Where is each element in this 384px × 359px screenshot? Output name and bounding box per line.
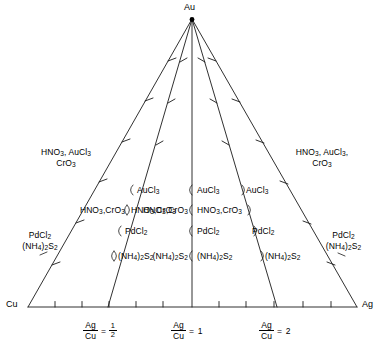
label-half-aucl3: AuCl3 [137,185,160,196]
ratio-two-fraction: Ag Cu [259,320,274,341]
label-right-top: HNO3, AuCl3, CrO3 [272,147,372,168]
ratio-one-value: 1 [198,325,203,336]
ratio-two-numerator: Ag [259,320,273,331]
label-one-hno3-cro3: HNO3,CrO3 [197,205,242,216]
label-right-bottom-line1: PdCl2 [332,230,355,240]
ratio-label-two: Ag Cu = 2 [258,320,293,341]
apex-label-au: Au [184,2,195,12]
ratio-half-value-den: 2 [109,331,117,339]
apex-marker [190,17,195,22]
ratio-one-denominator: Cu [171,331,186,341]
label-right-bottom-line2: (NH4)2S2 [326,241,361,251]
ratio-half-denominator: Cu [83,331,98,341]
label-left-top-line2: CrO3 [56,158,76,168]
ratio-one-fraction: Ag Cu [171,320,186,341]
label-right-top-line2: CrO3 [312,158,332,168]
label-one-pdcl2: PdCl2 [197,226,220,237]
label-right-top-line1: HNO3, AuCl3, [296,147,349,157]
label-one-nh4-2s2: (NH4)2S2 [197,251,232,262]
label-left-bottom-line2: (NH4)2S2 [22,241,57,251]
ratio-half-equals: = [101,325,106,336]
ratio-one-numerator: Ag [171,320,185,331]
ratio-half-fraction: Ag Cu [83,320,98,341]
label-left-bottom: PdCl2 (NH4)2S2 [0,230,80,251]
ternary-diagram: Au Cu Ag HNO3, AuCl3 CrO3 PdCl2 (NH4)2S2… [0,0,384,359]
corner-label-cu: Cu [6,299,18,309]
label-two-nh4-2s2: (NH4)2S2 [265,251,300,262]
ratio-two-equals: = [277,325,282,336]
label-left-bottom-line1: PdCl2 [29,230,52,240]
ratio-two-denominator: Cu [259,331,274,341]
label-half-pdcl2: PdCl2 [125,226,148,237]
label-half-left-hno3-cro3: HNO3,CrO3 [120,205,188,216]
ratio-half-numerator: Ag [83,320,97,331]
ticks-ray-two [198,58,229,145]
label-right-bottom: PdCl2 (NH4)2S2 [303,230,384,251]
baseline-ticks [55,302,331,308]
ratio-label-one: Ag Cu = 1 [170,320,205,341]
label-one-aucl3: AuCl3 [197,185,220,196]
ticks-ray-half [156,58,187,145]
ratio-half-value: 1 2 [109,322,117,339]
diagram-canvas [0,0,384,359]
ratio-two-value: 2 [286,325,291,336]
label-left-top: HNO3, AuCl3 CrO3 [18,147,114,168]
ratio-one-equals: = [189,325,194,336]
ray-half [108,19,192,307]
ratio-label-half: Ag Cu = 1 2 [82,320,117,341]
label-hooks-ray-half [112,185,134,261]
label-two-aucl3: AuCl3 [246,185,269,196]
label-two-pdcl2: PdCl2 [252,226,275,237]
label-left-top-line1: HNO3, AuCl3 [41,147,91,157]
corner-label-ag: Ag [362,299,373,309]
label-cuedge-hno3-cro3: HNO3,CrO3 [55,205,125,216]
label-half-left-nh4-2s2: (NH4)2S2 [110,251,188,262]
